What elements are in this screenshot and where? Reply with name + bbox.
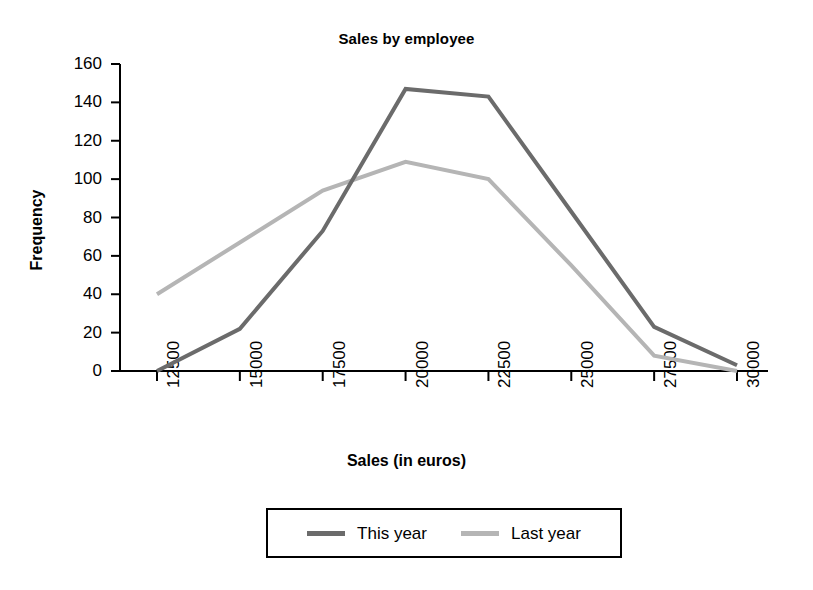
series-line-this-year [157, 89, 737, 371]
y-axis-ticks [111, 64, 120, 371]
legend-color-swatch [307, 531, 345, 536]
series-line-last-year [157, 162, 737, 371]
x-axis-ticks [157, 371, 737, 381]
legend-label: This year [357, 525, 427, 542]
legend-label: Last year [511, 525, 581, 542]
legend-color-swatch [461, 531, 499, 536]
chart-container: Sales by employee Frequency Sales (in eu… [0, 0, 813, 590]
data-series-group [157, 89, 737, 371]
legend-item[interactable]: Last year [461, 525, 581, 542]
chart-legend: This yearLast year [266, 508, 622, 558]
legend-item[interactable]: This year [307, 525, 427, 542]
plot-area [0, 0, 813, 590]
axis-lines [120, 64, 768, 371]
